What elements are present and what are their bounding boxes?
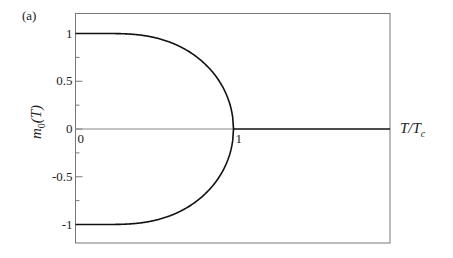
y-tick-label: 0 (66, 122, 73, 135)
series-line (76, 34, 234, 130)
y-axis-label: m_0(T)m0(T) (29, 105, 47, 139)
series-line (76, 129, 234, 225)
y-tick-label: -0.5 (52, 170, 73, 183)
x-tick-label: 1 (236, 132, 243, 145)
y-tick-label: -1 (62, 218, 73, 231)
x-axis-label: T/T_cT/Tc (400, 121, 425, 139)
x-tick-label: 0 (78, 132, 85, 145)
y-tick-label: 0.5 (56, 74, 72, 87)
panel-label: (a) (22, 9, 36, 22)
y-tick-label: 1 (66, 27, 73, 40)
